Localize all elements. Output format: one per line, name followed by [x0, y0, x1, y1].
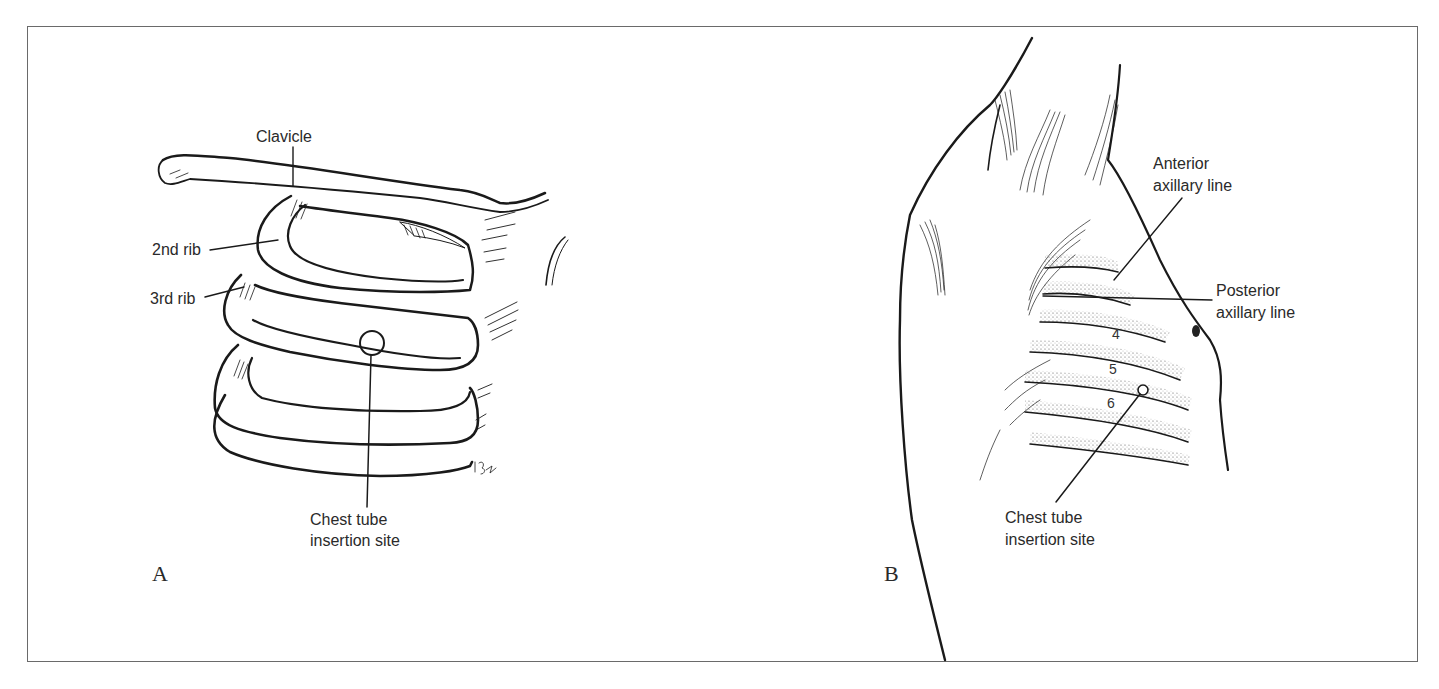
arm-outline — [1108, 65, 1228, 470]
rib3-leader — [205, 287, 244, 297]
sternum-hatching — [476, 212, 568, 430]
fourth-rib-shape — [215, 345, 478, 444]
panel-a-drawing — [159, 147, 568, 507]
second-rib-shape — [258, 196, 473, 292]
rib2-leader — [210, 240, 278, 250]
rib-number-4: 4 — [1112, 327, 1120, 342]
label-clavicle: Clavicle — [256, 127, 312, 146]
clavicle-shape — [159, 155, 548, 212]
panel-b-letter: B — [884, 562, 899, 586]
illustration-canvas — [0, 0, 1439, 689]
anterior-axillary-leader — [1114, 198, 1182, 280]
label-anterior-line1: Anterior — [1153, 154, 1209, 173]
label-posterior-line1: Posterior — [1216, 281, 1280, 300]
torso-left-outline — [900, 38, 1032, 660]
panel-b-drawing — [900, 38, 1228, 660]
label-insertion-a-line1: Chest tube — [310, 510, 387, 529]
insertion-leader-a — [367, 355, 371, 507]
label-insertion-a-line2: insertion site — [310, 531, 400, 550]
insertion-site-marker-a — [360, 331, 384, 355]
panel-a-letter: A — [152, 562, 168, 586]
label-insertion-b-line2: insertion site — [1005, 530, 1095, 549]
label-third-rib: 3rd rib — [150, 289, 195, 308]
rib-number-6: 6 — [1107, 396, 1115, 411]
nipple-mark — [1192, 325, 1200, 337]
shoulder-crease — [988, 105, 1000, 170]
label-insertion-b-line1: Chest tube — [1005, 508, 1082, 527]
rib-number-5: 5 — [1109, 362, 1117, 377]
artist-signature — [475, 462, 496, 474]
label-second-rib: 2nd rib — [152, 240, 201, 259]
fifth-rib-shape — [214, 395, 472, 476]
label-posterior-line2: axillary line — [1216, 303, 1295, 322]
label-anterior-line2: axillary line — [1153, 176, 1232, 195]
